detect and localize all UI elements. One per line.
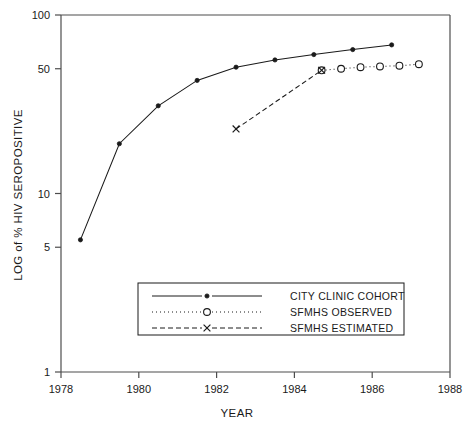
- legend-marker-dot: [205, 294, 209, 298]
- x-tick-label: 1980: [127, 383, 151, 395]
- series-0-point: [234, 65, 238, 69]
- y-tick-label: 100: [32, 9, 50, 21]
- legend-label-0: CITY CLINIC COHORT: [290, 290, 405, 302]
- x-tick-label: 1978: [49, 383, 73, 395]
- y-tick-label: 50: [38, 63, 50, 75]
- x-tick-label: 1984: [282, 383, 306, 395]
- series-1-point: [396, 62, 403, 69]
- chart-container: 100501051197819801982198419861988YEARLOG…: [0, 0, 474, 429]
- y-axis-title: LOG of % HIV SEROPOSITIVE: [12, 109, 24, 281]
- series-0-point: [390, 43, 394, 47]
- series-1-point: [338, 65, 345, 72]
- series-0-point: [351, 47, 355, 51]
- series-0-point: [273, 58, 277, 62]
- x-tick-label: 1988: [438, 383, 462, 395]
- x-tick-label: 1986: [360, 383, 384, 395]
- legend-marker-circle: [204, 309, 211, 316]
- series-0-point: [78, 238, 82, 242]
- x-tick-label: 1982: [204, 383, 228, 395]
- series-line-1: [322, 64, 419, 70]
- y-tick-label: 1: [44, 366, 50, 378]
- legend-label-1: SFMHS OBSERVED: [290, 306, 392, 318]
- series-1-point: [415, 61, 422, 68]
- hiv-seroprevalence-chart: 100501051197819801982198419861988YEARLOG…: [0, 0, 474, 429]
- series-0-point: [117, 142, 121, 146]
- series-line-2: [236, 70, 322, 129]
- series-0-point: [195, 78, 199, 82]
- series-0-point: [156, 104, 160, 108]
- y-tick-label: 10: [38, 188, 50, 200]
- series-line-0: [80, 45, 391, 240]
- series-0-point: [312, 53, 316, 57]
- y-tick-label: 5: [44, 241, 50, 253]
- series-1-point: [377, 63, 384, 70]
- x-axis-title: YEAR: [221, 407, 254, 419]
- series-1-point: [357, 64, 364, 71]
- legend-label-2: SFMHS ESTIMATED: [290, 322, 394, 334]
